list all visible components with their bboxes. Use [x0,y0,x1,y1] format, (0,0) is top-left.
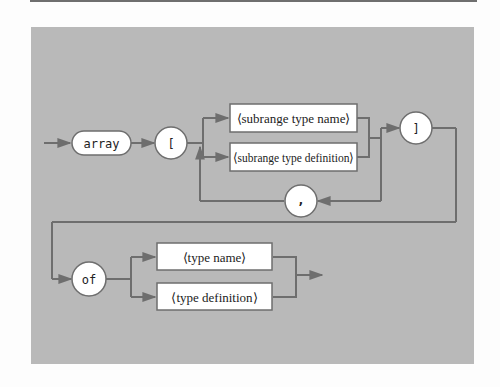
nonterminal-subrange-type-name: ⟨subrange type name⟩ [230,104,357,132]
terminal-comma-label: , [297,192,305,207]
nonterminal-subrange-type-name-label: ⟨subrange type name⟩ [237,111,351,126]
terminal-array-label: array [83,137,119,151]
nonterminal-subrange-type-definition-label: ⟨subrange type definition⟩ [233,151,354,165]
terminal-comma: , [285,185,317,217]
terminal-close-bracket-label: ] [412,122,419,136]
nonterminal-subrange-type-definition: ⟨subrange type definition⟩ [230,143,357,171]
terminal-close-bracket: ] [400,112,432,144]
nonterminal-type-definition: ⟨type definition⟩ [157,283,272,310]
terminal-of-label: of [82,273,96,287]
terminal-of: of [72,262,106,296]
nonterminal-type-definition-label: ⟨type definition⟩ [171,290,257,305]
terminal-open-bracket-label: [ [167,137,174,151]
terminal-array: array [72,131,131,155]
nonterminal-type-name: ⟨type name⟩ [157,243,272,270]
nonterminal-type-name-label: ⟨type name⟩ [183,250,247,265]
terminal-open-bracket: [ [155,127,187,159]
syntax-diagram: array [ ⟨subrange type name⟩ ⟨subrange t… [0,0,500,387]
